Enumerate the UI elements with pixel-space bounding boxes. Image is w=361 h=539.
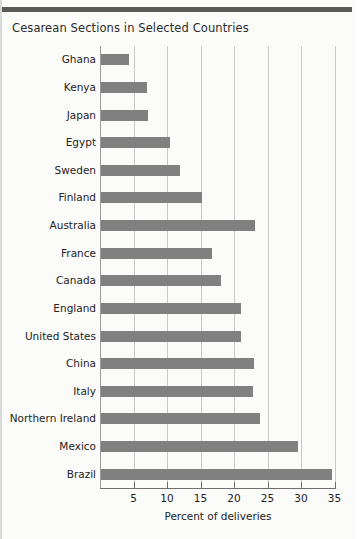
title-top-rule [2, 7, 352, 12]
x-tickmark-10 [167, 482, 168, 488]
x-tick-label-35: 35 [315, 492, 355, 504]
gridline-25 [268, 46, 269, 488]
y-tick-label-egypt: Egypt [0, 136, 96, 148]
bar-mexico [101, 441, 298, 452]
gridline-30 [301, 46, 302, 488]
x-tickmark-20 [234, 482, 235, 488]
chart-title: Cesarean Sections in Selected Countries [12, 21, 249, 35]
bar-sweden [101, 165, 180, 176]
bar-kenya [101, 82, 147, 93]
x-axis-label: Percent of deliveries [100, 510, 336, 522]
x-tickmark-5 [134, 482, 135, 488]
bar-united-states [101, 331, 241, 342]
bar-france [101, 248, 212, 259]
y-tick-label-ghana: Ghana [0, 53, 96, 65]
bar-northern-ireland [101, 413, 260, 424]
x-tickmark-35 [335, 482, 336, 488]
plot-area [100, 46, 335, 488]
y-tick-label-finland: Finland [0, 191, 96, 203]
y-tick-label-japan: Japan [0, 109, 96, 121]
bar-egypt [101, 137, 170, 148]
y-tick-label-canada: Canada [0, 274, 96, 286]
bar-ghana [101, 54, 129, 65]
y-tick-label-sweden: Sweden [0, 164, 96, 176]
x-axis-line [100, 488, 336, 489]
x-tickmark-25 [268, 482, 269, 488]
y-tick-label-china: China [0, 357, 96, 369]
x-tickmark-15 [201, 482, 202, 488]
gridline-35 [335, 46, 336, 488]
bar-italy [101, 386, 253, 397]
bar-brazil [101, 469, 332, 480]
bar-china [101, 358, 254, 369]
bar-australia [101, 220, 255, 231]
y-tick-label-brazil: Brazil [0, 468, 96, 480]
y-tick-label-northern-ireland: Northern Ireland [0, 412, 96, 424]
bar-canada [101, 275, 221, 286]
y-tick-label-england: England [0, 302, 96, 314]
y-tick-label-united-states: United States [0, 330, 96, 342]
y-tick-label-kenya: Kenya [0, 81, 96, 93]
x-tickmark-30 [301, 482, 302, 488]
y-tick-label-australia: Australia [0, 219, 96, 231]
y-tick-label-france: France [0, 247, 96, 259]
bar-finland [101, 192, 202, 203]
y-tick-label-italy: Italy [0, 385, 96, 397]
bar-england [101, 303, 241, 314]
y-tick-label-mexico: Mexico [0, 440, 96, 452]
bar-japan [101, 110, 148, 121]
page-right-border [355, 0, 361, 539]
chart-figure: Cesarean Sections in Selected Countries … [0, 0, 361, 539]
